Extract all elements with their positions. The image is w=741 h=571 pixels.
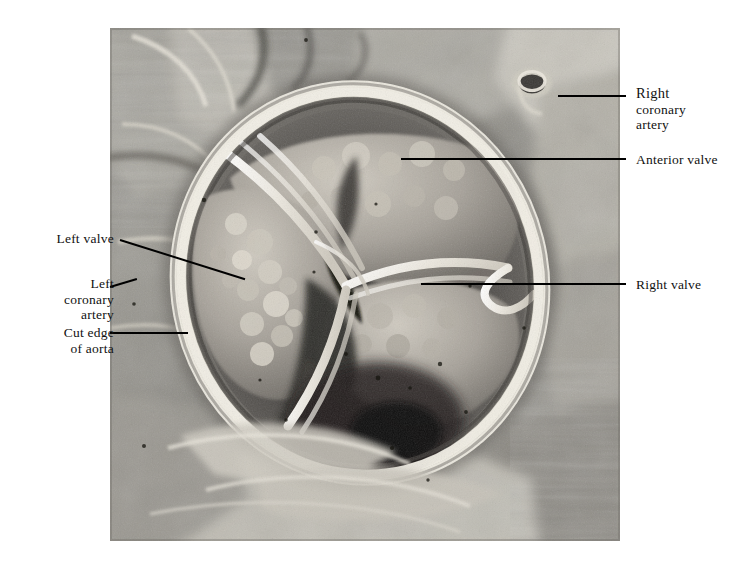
label-right-valve-line-1: Right valve: [636, 277, 701, 293]
label-anterior-valve: Anterior valve: [636, 152, 718, 168]
label-left-valve: Left valve: [14, 231, 114, 247]
label-left-coronary-artery: Left coronary artery: [14, 276, 114, 323]
label-right-valve: Right valve: [636, 277, 701, 293]
leader-line-right-coronary-artery: [558, 95, 626, 97]
anatomical-figure: Right coronary artery Anterior valve Rig…: [0, 0, 741, 571]
label-left-coronary-artery-line-1: Left: [14, 276, 114, 292]
label-cut-edge-of-aorta-line-1: Cut edge: [14, 325, 114, 341]
label-right-coronary-artery: Right coronary artery: [636, 86, 686, 133]
label-right-coronary-artery-line-1: Right: [636, 86, 686, 102]
leader-line-right-valve: [421, 283, 626, 285]
label-right-coronary-artery-line-2: coronary: [636, 102, 686, 118]
label-left-coronary-artery-line-2: coronary: [14, 292, 114, 308]
label-right-coronary-artery-line-3: artery: [636, 117, 686, 133]
leader-line-cut-edge-of-aorta: [110, 332, 188, 334]
label-left-valve-line-1: Left valve: [14, 231, 114, 247]
leader-line-anterior-valve: [401, 158, 626, 160]
label-left-coronary-artery-line-3: artery: [14, 307, 114, 323]
label-cut-edge-of-aorta-line-2: of aorta: [14, 341, 114, 357]
label-cut-edge-of-aorta: Cut edge of aorta: [14, 325, 114, 356]
label-anterior-valve-line-1: Anterior valve: [636, 152, 718, 168]
